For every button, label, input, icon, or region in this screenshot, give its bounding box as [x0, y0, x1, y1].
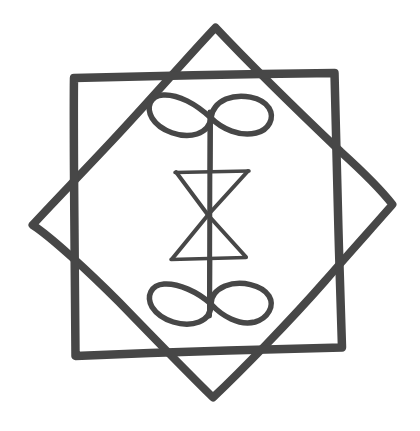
sigil-drawing — [0, 0, 420, 431]
sigil-canvas — [0, 0, 420, 431]
